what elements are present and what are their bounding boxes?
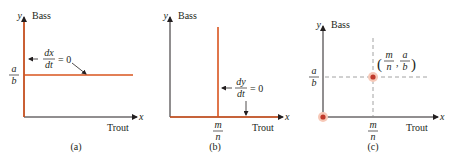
svg-text:dt: dt [237,88,245,99]
y-axis-var: y [17,10,23,21]
x-axis-label: Trout [406,122,428,133]
svg-text:m: m [369,119,376,130]
equilibrium-point-origin [318,112,328,122]
svg-text:n: n [387,61,392,72]
svg-text:b: b [12,75,17,86]
svg-text:a: a [403,49,408,60]
panel-a: y Bass x Trout a b dx dt = 0 (a) [9,10,144,153]
svg-text:= 0: = 0 [58,54,71,65]
x-tick-m-over-n: m n [368,119,378,142]
svg-text:a: a [12,63,17,74]
svg-text:dt: dt [45,59,53,70]
panel-c: y Bass x Trout a b m n ( m n , a [309,19,445,153]
svg-text:dy: dy [236,76,246,87]
pointer-arrow-icon [72,63,86,74]
svg-text:m: m [385,49,392,60]
x-axis-var: x [138,111,144,122]
y-axis-label: Bass [331,19,350,30]
y-tick-a-over-b: a b [309,65,319,88]
point-label-m-over-n-a-over-b: ( m n , a b ) [377,49,416,73]
x-axis-label: Trout [107,122,129,133]
annotation-dy-dt-zero: dy dt = 0 [222,76,263,115]
panel-b: y Bass x Trout m n dy dt = 0 (b) [163,10,290,153]
svg-text:): ) [411,56,416,73]
x-axis-var: x [439,111,445,122]
annotation-dx-dt-zero: dx dt = 0 [29,47,86,74]
svg-text:dx: dx [44,47,54,58]
y-axis-label: Bass [32,10,51,21]
svg-text:a: a [312,65,317,76]
caption-c: (c) [367,141,378,153]
svg-text:(: ( [377,56,382,73]
x-axis-label: Trout [252,122,274,133]
y-axis-var: y [163,10,169,21]
svg-text:b: b [403,61,408,72]
equilibrium-diagram: y Bass x Trout a b dx dt = 0 (a) y Bass … [0,0,455,166]
svg-text:m: m [214,119,221,130]
y-axis-var: y [316,19,322,30]
equilibrium-point-interior [368,72,378,82]
caption-b: (b) [209,141,221,153]
y-tick-a-over-b: a b [9,63,19,86]
x-axis-var: x [284,111,290,122]
svg-text:= 0: = 0 [250,83,263,94]
svg-text:b: b [312,77,317,88]
y-axis-label: Bass [178,10,197,21]
svg-text:,: , [396,57,399,68]
x-tick-m-over-n: m n [213,119,223,142]
caption-a: (a) [70,141,81,153]
